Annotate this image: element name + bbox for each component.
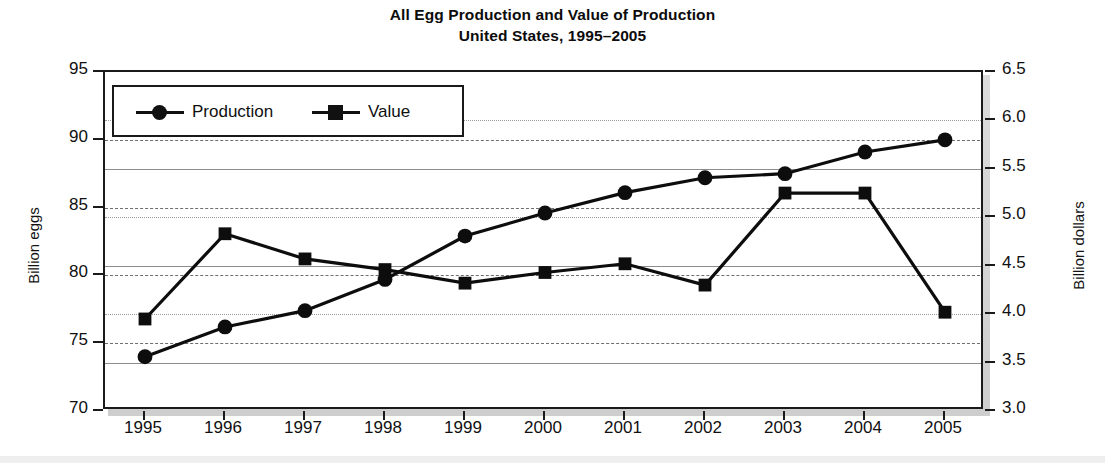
data-point-value-2005 <box>939 306 952 319</box>
legend-line-value <box>312 100 360 124</box>
data-point-value-1997 <box>299 253 312 266</box>
data-point-production-2000 <box>538 206 553 221</box>
chart-title-line1: All Egg Production and Value of Producti… <box>390 6 715 23</box>
data-point-value-2001 <box>619 257 632 270</box>
data-point-production-2005 <box>938 132 953 147</box>
tick-left-70 <box>93 409 103 411</box>
tick-label-left-95: 95 <box>28 59 88 79</box>
tick-right-5.5 <box>985 167 995 169</box>
tick-label-x-1995: 1995 <box>103 418 183 438</box>
tick-label-x-2003: 2003 <box>743 418 823 438</box>
tick-right-4.0 <box>985 312 995 314</box>
tick-label-right-5.0: 5.0 <box>1002 204 1062 224</box>
tick-label-right-3.5: 3.5 <box>1002 350 1062 370</box>
tick-left-90 <box>93 138 103 140</box>
tick-label-x-2002: 2002 <box>663 418 743 438</box>
data-point-value-2003 <box>779 187 792 200</box>
legend-line-production <box>136 100 184 124</box>
tick-right-3.5 <box>985 361 995 363</box>
tick-label-x-1999: 1999 <box>423 418 503 438</box>
chart-figure: All Egg Production and Value of Producti… <box>0 0 1105 463</box>
legend-label-value: Value <box>368 102 410 122</box>
data-point-production-2002 <box>698 170 713 185</box>
tick-label-x-1998: 1998 <box>343 418 423 438</box>
data-point-production-1995 <box>138 349 153 364</box>
tick-left-85 <box>93 206 103 208</box>
tick-label-x-2001: 2001 <box>583 418 663 438</box>
tick-label-right-4.5: 4.5 <box>1002 253 1062 273</box>
tick-label-right-3.0: 3.0 <box>1002 398 1062 418</box>
data-point-production-1999 <box>458 229 473 244</box>
tick-right-6.0 <box>985 118 995 120</box>
tick-right-4.5 <box>985 264 995 266</box>
tick-label-left-90: 90 <box>28 127 88 147</box>
legend-entry-value: Value <box>312 99 410 125</box>
data-point-value-1995 <box>139 313 152 326</box>
data-point-production-1997 <box>298 303 313 318</box>
chart-legend: Production Value <box>112 85 464 137</box>
tick-label-x-1997: 1997 <box>263 418 343 438</box>
tick-label-right-6.5: 6.5 <box>1002 59 1062 79</box>
data-point-value-1996 <box>219 227 232 240</box>
tick-label-x-2005: 2005 <box>903 418 983 438</box>
circle-marker-icon <box>152 105 167 120</box>
tick-right-6.5 <box>985 70 995 72</box>
series-line-production <box>145 140 945 357</box>
legend-label-production: Production <box>192 102 273 122</box>
data-point-value-1998 <box>379 263 392 276</box>
tick-left-75 <box>93 341 103 343</box>
scan-edge-artifact <box>0 456 1105 463</box>
tick-label-x-1996: 1996 <box>183 418 263 438</box>
tick-left-95 <box>93 70 103 72</box>
chart-title: All Egg Production and Value of Producti… <box>0 4 1105 46</box>
tick-label-left-75: 75 <box>28 330 88 350</box>
y-axis-right-title: Billion dollars <box>1070 176 1087 316</box>
chart-title-line2: United States, 1995–2005 <box>0 25 1105 46</box>
data-point-value-2002 <box>699 279 712 292</box>
data-point-value-1999 <box>459 277 472 290</box>
data-point-value-2004 <box>859 187 872 200</box>
tick-label-x-2004: 2004 <box>823 418 903 438</box>
tick-label-right-6.0: 6.0 <box>1002 107 1062 127</box>
data-point-production-2003 <box>778 166 793 181</box>
tick-right-5.0 <box>985 215 995 217</box>
tick-label-right-4.0: 4.0 <box>1002 301 1062 321</box>
tick-right-3.0 <box>985 409 995 411</box>
legend-entry-production: Production <box>136 99 273 125</box>
tick-label-left-85: 85 <box>28 195 88 215</box>
square-marker-icon <box>328 105 343 120</box>
data-point-production-2004 <box>858 145 873 160</box>
data-point-value-2000 <box>539 266 552 279</box>
tick-label-left-80: 80 <box>28 262 88 282</box>
data-point-production-1996 <box>218 320 233 335</box>
tick-left-80 <box>93 273 103 275</box>
tick-label-left-70: 70 <box>28 398 88 418</box>
tick-label-x-2000: 2000 <box>503 418 583 438</box>
data-point-production-2001 <box>618 185 633 200</box>
tick-label-right-5.5: 5.5 <box>1002 156 1062 176</box>
